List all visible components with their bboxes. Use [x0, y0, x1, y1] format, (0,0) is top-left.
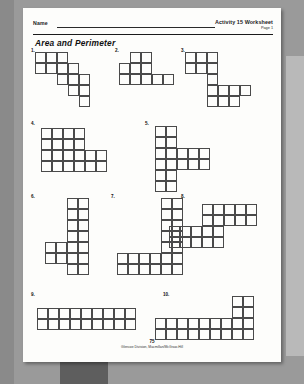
figure-grid-4[interactable] — [41, 128, 107, 172]
unit-square[interactable] — [224, 204, 235, 215]
figure-grid-10[interactable] — [155, 296, 254, 340]
unit-square[interactable] — [202, 237, 213, 248]
unit-square[interactable] — [57, 52, 68, 63]
unit-square[interactable] — [63, 161, 74, 172]
unit-square[interactable] — [213, 237, 224, 248]
unit-square[interactable] — [125, 308, 136, 319]
unit-square[interactable] — [85, 150, 96, 161]
unit-square[interactable] — [67, 264, 78, 275]
unit-square[interactable] — [224, 215, 235, 226]
unit-square[interactable] — [63, 139, 74, 150]
unit-square[interactable] — [96, 150, 107, 161]
unit-square[interactable] — [188, 318, 199, 329]
unit-square[interactable] — [155, 159, 166, 170]
unit-square[interactable] — [67, 209, 78, 220]
unit-square[interactable] — [74, 150, 85, 161]
unit-square[interactable] — [150, 264, 161, 275]
unit-square[interactable] — [85, 161, 96, 172]
unit-square[interactable] — [74, 128, 85, 139]
unit-square[interactable] — [78, 231, 89, 242]
unit-square[interactable] — [57, 74, 68, 85]
unit-square[interactable] — [130, 63, 141, 74]
unit-square[interactable] — [103, 308, 114, 319]
unit-square[interactable] — [232, 296, 243, 307]
unit-square[interactable] — [185, 63, 196, 74]
unit-square[interactable] — [52, 150, 63, 161]
unit-square[interactable] — [68, 74, 79, 85]
unit-square[interactable] — [246, 204, 257, 215]
unit-square[interactable] — [155, 137, 166, 148]
unit-square[interactable] — [166, 181, 177, 192]
unit-square[interactable] — [45, 242, 56, 253]
unit-square[interactable] — [52, 128, 63, 139]
unit-square[interactable] — [125, 319, 136, 330]
unit-square[interactable] — [188, 159, 199, 170]
figure-grid-1[interactable] — [35, 52, 90, 107]
unit-square[interactable] — [48, 308, 59, 319]
unit-square[interactable] — [152, 74, 163, 85]
unit-square[interactable] — [41, 128, 52, 139]
unit-square[interactable] — [52, 139, 63, 150]
unit-square[interactable] — [56, 253, 67, 264]
unit-square[interactable] — [35, 63, 46, 74]
unit-square[interactable] — [169, 226, 180, 237]
unit-square[interactable] — [128, 264, 139, 275]
unit-square[interactable] — [166, 318, 177, 329]
unit-square[interactable] — [81, 308, 92, 319]
unit-square[interactable] — [37, 308, 48, 319]
unit-square[interactable] — [235, 215, 246, 226]
unit-square[interactable] — [59, 308, 70, 319]
unit-square[interactable] — [210, 318, 221, 329]
unit-square[interactable] — [67, 231, 78, 242]
unit-square[interactable] — [56, 242, 67, 253]
unit-square[interactable] — [78, 198, 89, 209]
unit-square[interactable] — [81, 319, 92, 330]
unit-square[interactable] — [78, 220, 89, 231]
unit-square[interactable] — [191, 237, 202, 248]
unit-square[interactable] — [67, 253, 78, 264]
unit-square[interactable] — [128, 253, 139, 264]
unit-square[interactable] — [41, 139, 52, 150]
unit-square[interactable] — [67, 198, 78, 209]
unit-square[interactable] — [68, 63, 79, 74]
unit-square[interactable] — [161, 253, 172, 264]
unit-square[interactable] — [79, 74, 90, 85]
unit-square[interactable] — [191, 226, 202, 237]
unit-square[interactable] — [78, 242, 89, 253]
unit-square[interactable] — [78, 253, 89, 264]
unit-square[interactable] — [68, 85, 79, 96]
figure-grid-8[interactable] — [169, 204, 257, 248]
unit-square[interactable] — [37, 319, 48, 330]
unit-square[interactable] — [79, 96, 90, 107]
unit-square[interactable] — [196, 63, 207, 74]
unit-square[interactable] — [119, 63, 130, 74]
unit-square[interactable] — [202, 226, 213, 237]
unit-square[interactable] — [213, 215, 224, 226]
unit-square[interactable] — [141, 63, 152, 74]
unit-square[interactable] — [166, 137, 177, 148]
figure-grid-9[interactable] — [37, 308, 136, 330]
unit-square[interactable] — [70, 319, 81, 330]
unit-square[interactable] — [243, 296, 254, 307]
unit-square[interactable] — [46, 52, 57, 63]
unit-square[interactable] — [78, 209, 89, 220]
unit-square[interactable] — [45, 253, 56, 264]
unit-square[interactable] — [172, 253, 183, 264]
unit-square[interactable] — [63, 128, 74, 139]
unit-square[interactable] — [199, 148, 210, 159]
unit-square[interactable] — [74, 161, 85, 172]
unit-square[interactable] — [150, 253, 161, 264]
unit-square[interactable] — [67, 220, 78, 231]
unit-square[interactable] — [207, 74, 218, 85]
unit-square[interactable] — [52, 161, 63, 172]
unit-square[interactable] — [96, 161, 107, 172]
unit-square[interactable] — [155, 318, 166, 329]
unit-square[interactable] — [177, 318, 188, 329]
unit-square[interactable] — [180, 226, 191, 237]
unit-square[interactable] — [70, 308, 81, 319]
figure-grid-5[interactable] — [155, 126, 210, 192]
unit-square[interactable] — [67, 242, 78, 253]
unit-square[interactable] — [166, 148, 177, 159]
figure-grid-6[interactable] — [45, 198, 89, 275]
unit-square[interactable] — [92, 319, 103, 330]
